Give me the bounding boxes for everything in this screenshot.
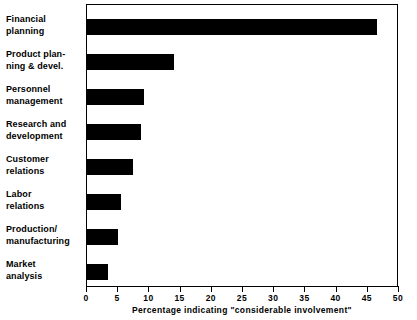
x-axis-tick	[273, 286, 274, 292]
category-label: Personnel management	[6, 83, 86, 107]
x-axis-tick	[148, 286, 149, 292]
bar-production-manufacturing	[87, 229, 118, 245]
category-label: Market analysis	[6, 258, 86, 282]
category-label: Product plan- ning & devel.	[6, 48, 86, 72]
x-axis-tick	[211, 286, 212, 292]
bar-product-planning	[87, 54, 174, 70]
x-axis-tick	[367, 286, 368, 292]
bar-research-development	[87, 124, 141, 140]
bar-labor-relations	[87, 194, 121, 210]
x-axis-title: Percentage indicating "considerable invo…	[86, 305, 398, 315]
x-axis-tick	[304, 286, 305, 292]
x-axis-tick	[242, 286, 243, 292]
category-label: Research and development	[6, 118, 86, 142]
x-axis-tick	[86, 286, 87, 292]
x-axis-tick	[336, 286, 337, 292]
category-label: Production/ manufacturing	[6, 223, 86, 247]
x-axis-tick	[180, 286, 181, 292]
bars-layer	[87, 5, 397, 286]
category-label: Customer relations	[6, 153, 86, 177]
category-axis-labels: Financial planning Product plan- ning & …	[0, 0, 86, 290]
bar-customer-relations	[87, 159, 133, 175]
plot-area	[86, 4, 398, 287]
chart-figure: Financial planning Product plan- ning & …	[0, 0, 417, 320]
x-axis-tick-label: 50	[378, 293, 417, 303]
category-label: Financial planning	[6, 13, 86, 37]
bar-financial-planning	[87, 19, 377, 35]
x-axis-tick	[117, 286, 118, 292]
bar-market-analysis	[87, 264, 108, 280]
x-axis-tick	[398, 286, 399, 292]
bar-personnel-management	[87, 89, 144, 105]
category-label: Labor relations	[6, 188, 86, 212]
